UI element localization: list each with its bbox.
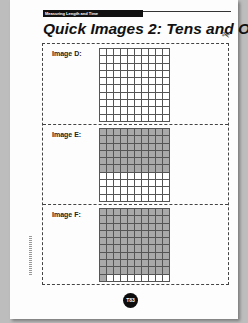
grid-cell <box>114 144 121 151</box>
grid-cell <box>135 224 142 231</box>
grid-cell <box>128 173 135 180</box>
grid-cell <box>142 64 149 71</box>
grid-cell <box>135 260 142 267</box>
grid-cell <box>107 253 114 260</box>
grid-cell <box>107 100 114 107</box>
grid-cell <box>156 56 163 63</box>
grid-cell <box>107 180 114 187</box>
grid-cell <box>142 180 149 187</box>
grid-cell <box>163 144 170 151</box>
grid-cell <box>149 100 156 107</box>
grid-cell <box>163 187 170 194</box>
grid-cell <box>107 158 114 165</box>
grid-cell <box>163 64 170 71</box>
grid-cell <box>114 151 121 158</box>
grid-cell <box>149 231 156 238</box>
grid-cell <box>100 93 107 100</box>
grid-cell <box>121 144 128 151</box>
grid-cell <box>163 209 170 216</box>
grid-cell <box>135 49 142 56</box>
grid-cell <box>163 151 170 158</box>
grid-cell <box>107 260 114 267</box>
grid-cell <box>128 71 135 78</box>
grid-cell <box>121 85 128 92</box>
grid-cell <box>163 238 170 245</box>
grid-cell <box>142 173 149 180</box>
grid-cell <box>107 245 114 252</box>
grid-cell <box>149 224 156 231</box>
grid-cell <box>107 187 114 194</box>
grid-cell <box>121 64 128 71</box>
grid-cell <box>163 49 170 56</box>
grid-cell <box>142 216 149 223</box>
grid-cell <box>100 209 107 216</box>
grid-cell <box>114 180 121 187</box>
grid-cell <box>156 209 163 216</box>
grid-cell <box>114 253 121 260</box>
image-d-section: Image D: <box>43 44 228 124</box>
grid-cell <box>100 224 107 231</box>
grid-cell <box>156 115 163 122</box>
grid-cell <box>100 180 107 187</box>
image-d-grid <box>99 48 170 122</box>
grid-cell <box>107 71 114 78</box>
grid-cell <box>107 115 114 122</box>
grid-cell <box>142 115 149 122</box>
grid-cell <box>163 231 170 238</box>
grid-cell <box>121 231 128 238</box>
grid-cell <box>163 136 170 143</box>
grid-cell <box>135 253 142 260</box>
grid-cell <box>100 115 107 122</box>
header-rule <box>143 11 231 12</box>
grid-cell <box>114 93 121 100</box>
grid-cell <box>121 56 128 63</box>
grid-cell <box>135 144 142 151</box>
grid-cell <box>142 129 149 136</box>
grid-cell <box>135 115 142 122</box>
grid-cell <box>114 267 121 274</box>
grid-cell <box>121 275 128 282</box>
grid-cell <box>121 267 128 274</box>
grid-cell <box>156 224 163 231</box>
grid-cell <box>114 85 121 92</box>
grid-cell <box>121 78 128 85</box>
grid-cell <box>149 64 156 71</box>
grid-cell <box>100 253 107 260</box>
grid-cell <box>100 260 107 267</box>
grid-cell <box>121 245 128 252</box>
grid-cell <box>142 187 149 194</box>
grid-cell <box>156 93 163 100</box>
grid-cell <box>149 71 156 78</box>
grid-cell <box>135 238 142 245</box>
grid-cell <box>121 173 128 180</box>
grid-cell <box>100 151 107 158</box>
grid-cell <box>100 267 107 274</box>
image-d-label: Image D: <box>52 50 82 57</box>
grid-cell <box>142 245 149 252</box>
grid-cell <box>135 93 142 100</box>
grid-cell <box>149 129 156 136</box>
grid-cell <box>100 49 107 56</box>
grid-cell <box>100 195 107 202</box>
grid-cell <box>142 107 149 114</box>
grid-cell <box>128 49 135 56</box>
grid-cell <box>100 129 107 136</box>
grid-cell <box>100 238 107 245</box>
grid-cell <box>107 275 114 282</box>
grid-cell <box>114 173 121 180</box>
grid-cell <box>114 107 121 114</box>
grid-cell <box>107 78 114 85</box>
grid-cell <box>128 224 135 231</box>
grid-cell <box>121 216 128 223</box>
grid-cell <box>163 71 170 78</box>
grid-cell <box>156 267 163 274</box>
grid-cell <box>100 165 107 172</box>
grid-cell <box>149 115 156 122</box>
grid-cell <box>135 180 142 187</box>
grid-cell <box>128 115 135 122</box>
grid-cell <box>142 238 149 245</box>
grid-cell <box>163 85 170 92</box>
grid-cell <box>114 238 121 245</box>
grid-cell <box>114 165 121 172</box>
worksheet-page: Measuring Length and Time Quick Images 2… <box>10 0 238 319</box>
